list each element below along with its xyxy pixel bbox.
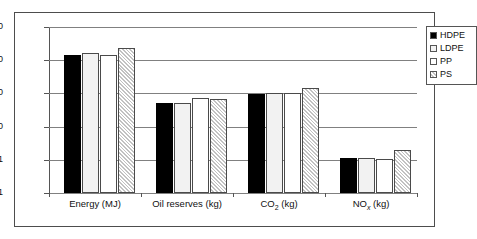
- legend-item-label: HDPE: [440, 31, 465, 40]
- x-axis-category-label: NOx (kg): [325, 199, 417, 211]
- solid-black-swatch: [430, 32, 437, 39]
- x-axis-tick: [141, 193, 142, 197]
- y-axis-tick-label: 0.1: [0, 188, 3, 197]
- bar-ps-3: [394, 150, 411, 193]
- legend-item-label: PS: [440, 70, 452, 79]
- y-axis-tick-label: 1000: [0, 55, 3, 64]
- legend-item-ps: PS: [430, 68, 473, 81]
- legend-item-label: PP: [440, 57, 452, 66]
- x-axis-tick: [325, 193, 326, 197]
- x-axis-tick: [417, 193, 418, 197]
- bar-hdpe-1: [156, 103, 173, 193]
- bar-ldpe-1: [174, 103, 191, 193]
- x-axis-category-label: Energy (MJ): [49, 199, 141, 209]
- bar-ps-0: [118, 48, 135, 193]
- dotted-light-swatch: [430, 45, 437, 52]
- bar-pp-2: [284, 93, 301, 193]
- x-axis-tick: [233, 193, 234, 197]
- legend-item-label: LDPE: [440, 44, 464, 53]
- bar-ldpe-3: [358, 158, 375, 193]
- bar-group: [325, 27, 417, 193]
- y-axis-tick-label: 1: [0, 155, 3, 164]
- y-axis-labels: 10 00010001001010.1: [0, 27, 11, 193]
- bar-pp-1: [192, 98, 209, 193]
- plot-area: Energy (MJ)Oil reserves (kg)CO2 (kg)NOx …: [49, 27, 417, 193]
- bar-ps-1: [210, 99, 227, 193]
- bar-ps-2: [302, 88, 319, 193]
- bar-group: [141, 27, 233, 193]
- x-axis-category-label: Oil reserves (kg): [141, 199, 233, 209]
- y-axis-tick-label: 10 000: [0, 22, 3, 31]
- chart-legend: HDPELDPEPPPS: [426, 26, 477, 85]
- legend-item-ldpe: LDPE: [430, 42, 473, 55]
- bar-group: [49, 27, 141, 193]
- hatched-gray-swatch: [430, 71, 437, 78]
- x-axis-tick: [49, 193, 50, 197]
- bar-pp-3: [376, 159, 393, 193]
- legend-item-pp: PP: [430, 55, 473, 68]
- bar-hdpe-3: [340, 158, 357, 193]
- bar-ldpe-0: [82, 53, 99, 193]
- x-axis-category-label: CO2 (kg): [233, 199, 325, 211]
- bar-pp-0: [100, 55, 117, 193]
- y-axis-tick-label: 100: [0, 88, 3, 97]
- bar-ldpe-2: [266, 93, 283, 193]
- y-axis-tick-label: 10: [0, 122, 3, 131]
- legend-item-hdpe: HDPE: [430, 29, 473, 42]
- chart-figure: 10 00010001001010.1 Energy (MJ)Oil reser…: [14, 12, 435, 227]
- bar-group: [233, 27, 325, 193]
- white-swatch: [430, 58, 437, 65]
- bar-hdpe-2: [248, 94, 265, 193]
- bar-hdpe-0: [64, 55, 81, 193]
